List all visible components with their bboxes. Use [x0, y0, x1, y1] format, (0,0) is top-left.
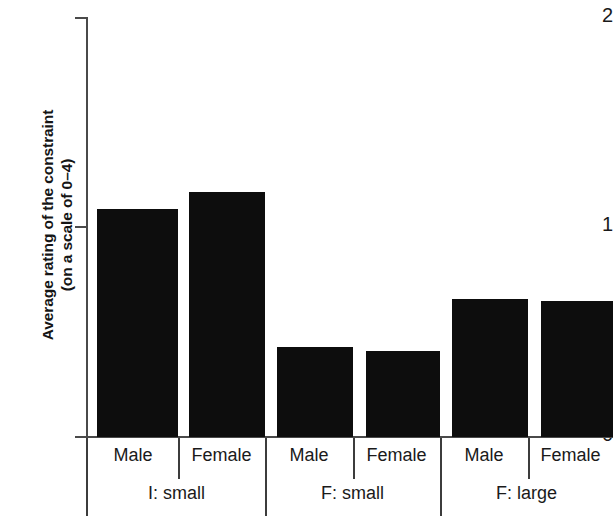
bar-i-small-male [97, 209, 178, 437]
x-group-label-f-large: F: large [440, 484, 613, 503]
y-tick-1-mark [75, 226, 87, 228]
y-axis-title: Average rating of the constraint (on a s… [38, 25, 76, 425]
bar-f-large-female [541, 301, 613, 437]
y-tick-2-mark [75, 17, 87, 19]
bar-i-small-female [189, 192, 265, 437]
x-label-f-large-female: Female [528, 446, 613, 465]
x-label-f-small-male: Male [265, 446, 353, 465]
bar-f-large-male [452, 299, 528, 437]
bar-f-small-male [277, 347, 353, 437]
y-axis-line [86, 17, 88, 480]
x-label-i-small-female: Female [178, 446, 265, 465]
bar-chart: Average rating of the constraint (on a s… [0, 0, 613, 516]
x-label-i-small-male: Male [88, 446, 178, 465]
bar-f-small-female [366, 351, 440, 437]
x-group-label-f-small: F: small [265, 484, 440, 503]
y-tick-label-2: 2 [579, 5, 613, 25]
x-label-f-small-female: Female [353, 446, 440, 465]
y-tick-label-1: 1 [579, 214, 613, 234]
x-group-label-i-small: I: small [88, 484, 265, 503]
x-label-f-large-male: Male [440, 446, 528, 465]
